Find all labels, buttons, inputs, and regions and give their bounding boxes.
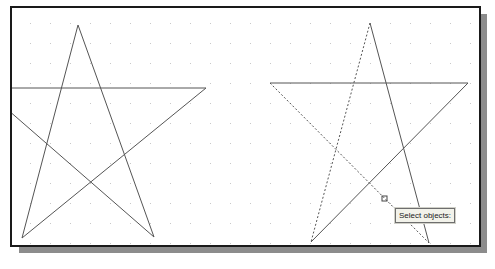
tooltip-text: Select objects: [399,211,451,220]
command-tooltip: Select objects: [395,208,455,223]
left-star-edge[interactable] [22,88,206,238]
left-star-edge[interactable] [12,103,154,237]
left-star-edge[interactable] [22,25,78,238]
left-star-edge[interactable] [78,25,154,237]
right-star-edge-selected[interactable] [311,23,370,242]
left-star[interactable] [12,25,206,238]
drawing-viewport[interactable]: Select objects: [10,6,481,247]
